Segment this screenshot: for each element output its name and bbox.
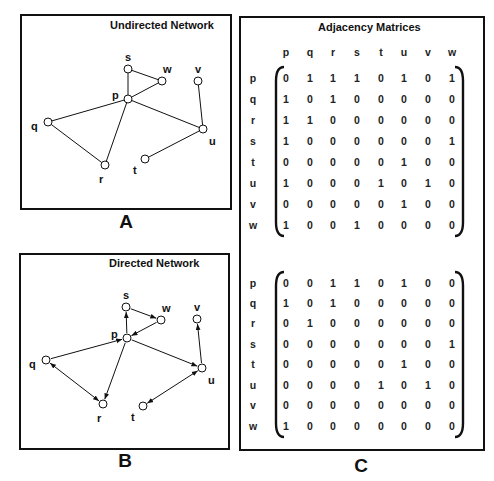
undirected-matrix-cell: 0 xyxy=(307,135,313,147)
directed-matrix-cell: 1 xyxy=(283,297,289,309)
undirected-graph: pqrstuvw xyxy=(31,51,216,185)
node-p xyxy=(123,334,131,342)
directed-matrix-cell: 0 xyxy=(425,317,431,329)
directed-matrix-cell: 0 xyxy=(378,358,384,370)
undirected-matrix-cell: 0 xyxy=(330,198,336,210)
undirected-matrix-cell: 1 xyxy=(354,219,360,231)
directed-matrix-cell: 0 xyxy=(307,338,313,350)
directed-matrix-cell: 0 xyxy=(401,338,407,350)
node-s xyxy=(124,65,132,73)
directed-matrix-cell: 0 xyxy=(307,399,313,411)
edge-p-w xyxy=(132,83,159,97)
undirected-matrix-cell: 0 xyxy=(378,114,384,126)
undirected-matrix-cell: 0 xyxy=(401,219,407,231)
directed-matrix-cell: 0 xyxy=(283,379,289,391)
directed-matrix-cell: 0 xyxy=(354,399,360,411)
directed-matrix-cell: 0 xyxy=(307,420,313,432)
directed-matrix-cell: 0 xyxy=(283,317,289,329)
node-label-v: v xyxy=(194,301,201,313)
directed-matrix-cell: 0 xyxy=(449,399,455,411)
directed-matrix-cell: 0 xyxy=(449,297,455,309)
directed-matrix-cell: 0 xyxy=(449,358,455,370)
undirected-matrix-cell: 1 xyxy=(307,72,313,84)
directed-matrix-row-label-w: w xyxy=(249,420,257,432)
directed-matrix-cell: 0 xyxy=(330,399,336,411)
directed-matrix-cell: 0 xyxy=(354,297,360,309)
directed-matrix-row-label-p: p xyxy=(250,277,256,289)
directed-matrix-cell: 0 xyxy=(354,420,360,432)
undirected-matrix-cell: 0 xyxy=(307,219,313,231)
directed-matrix-cell: 1 xyxy=(401,277,407,289)
node-w xyxy=(158,77,166,85)
node-label-w: w xyxy=(162,63,172,75)
undirected-matrix-row-label-q: q xyxy=(250,93,256,105)
node-t xyxy=(141,155,149,163)
directed-matrix-cell: 1 xyxy=(330,277,336,289)
node-p xyxy=(124,95,132,103)
undirected-matrix-cell: 1 xyxy=(378,177,384,189)
undirected-matrix-cell: 1 xyxy=(330,93,336,105)
undirected-matrix-cell: 1 xyxy=(283,135,289,147)
column-header-v: v xyxy=(425,46,431,58)
column-header-q: q xyxy=(307,46,313,58)
undirected-matrix-cell: 0 xyxy=(425,93,431,105)
arrow-p-s xyxy=(126,312,127,333)
undirected-matrix-row-label-r: r xyxy=(251,114,255,126)
undirected-matrix-row-label-u: u xyxy=(250,177,256,189)
node-s xyxy=(122,303,130,311)
undirected-matrix-cell: 0 xyxy=(401,135,407,147)
directed-matrix-cell: 0 xyxy=(330,338,336,350)
undirected-matrix-cell: 0 xyxy=(401,93,407,105)
undirected-matrix-row-label-s: s xyxy=(250,135,256,147)
right-bracket xyxy=(455,272,463,437)
directed-matrix-cell: 0 xyxy=(425,297,431,309)
node-label-q: q xyxy=(29,358,36,370)
arrow-p-u xyxy=(132,340,198,366)
directed-matrix-cell: 0 xyxy=(425,338,431,350)
edge-u-v xyxy=(198,85,202,125)
directed-matrix-cell: 0 xyxy=(401,297,407,309)
directed-matrix-cell: 0 xyxy=(378,420,384,432)
directed-matrix-row-label-t: t xyxy=(251,358,255,370)
matrix-brackets xyxy=(276,67,463,437)
edge-u-t xyxy=(149,131,200,157)
undirected-matrix-cell: 0 xyxy=(330,177,336,189)
edge-p-r xyxy=(106,103,126,161)
directed-matrix-row-label-s: s xyxy=(250,338,256,350)
undirected-matrix-cell: 0 xyxy=(354,177,360,189)
undirected-matrix-cell: 0 xyxy=(449,156,455,168)
directed-matrix-cell: 0 xyxy=(307,379,313,391)
undirected-matrix-row-label-w: w xyxy=(249,219,257,231)
edge-p-u xyxy=(132,100,200,127)
undirected-matrix-cell: 0 xyxy=(330,135,336,147)
undirected-matrix-cell: 0 xyxy=(354,93,360,105)
directed-matrix-cell: 0 xyxy=(425,277,431,289)
directed-matrix-cell: 0 xyxy=(378,277,384,289)
undirected-matrix-cell: 1 xyxy=(401,198,407,210)
undirected-matrix-cell: 0 xyxy=(425,219,431,231)
undirected-matrix-cell: 0 xyxy=(449,198,455,210)
directed-matrix-cell: 0 xyxy=(330,358,336,370)
undirected-matrix-cell: 0 xyxy=(330,114,336,126)
edge-q-r xyxy=(51,124,102,162)
directed-matrix-cell: 0 xyxy=(378,338,384,350)
directed-matrix-cell: 0 xyxy=(425,420,431,432)
arrow-t-u xyxy=(147,371,198,404)
node-label-r: r xyxy=(97,412,102,424)
edge-p-q xyxy=(52,100,124,121)
directed-matrix-cell: 0 xyxy=(283,399,289,411)
undirected-matrix-cell: 0 xyxy=(425,135,431,147)
undirected-matrix-cell: 0 xyxy=(283,198,289,210)
directed-matrix-row-label-q: q xyxy=(250,297,256,309)
right-bracket xyxy=(455,67,463,236)
directed-matrix-cell: 0 xyxy=(307,297,313,309)
node-label-s: s xyxy=(125,51,131,63)
undirected-matrix-cell: 0 xyxy=(378,219,384,231)
node-label-q: q xyxy=(31,120,38,132)
node-q xyxy=(42,356,50,364)
directed-matrix-cell: 1 xyxy=(283,420,289,432)
directed-matrix-cell: 0 xyxy=(307,277,313,289)
node-label-s: s xyxy=(123,289,129,301)
node-v xyxy=(194,77,202,85)
directed-matrix-cell: 0 xyxy=(449,379,455,391)
